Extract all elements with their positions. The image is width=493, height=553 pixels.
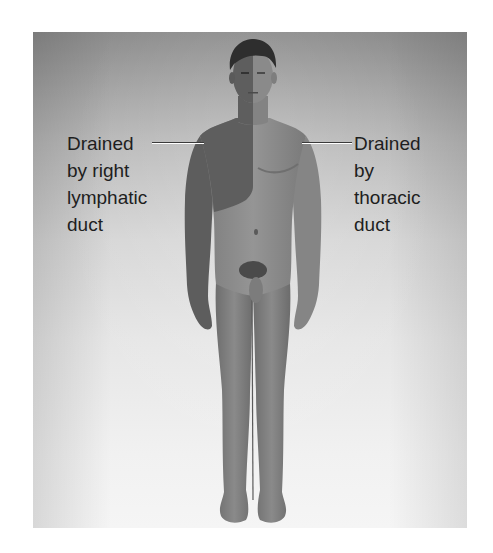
label-line: duct [354, 211, 421, 238]
label-right-lymphatic-duct: Drained by right lymphatic duct [67, 130, 147, 238]
label-line: Drained [67, 130, 147, 157]
legs [216, 282, 291, 523]
left-leader-line [152, 142, 204, 144]
torso [200, 118, 306, 303]
label-line: by right [67, 157, 147, 184]
label-line: Drained [354, 130, 421, 157]
human-body-figure [0, 0, 493, 553]
label-line: by [354, 157, 421, 184]
label-line: duct [67, 211, 147, 238]
label-thoracic-duct: Drained by thoracic duct [354, 130, 421, 238]
head [229, 39, 277, 103]
right-leader-line [302, 142, 352, 144]
label-line: lymphatic [67, 184, 147, 211]
label-line: thoracic [354, 184, 421, 211]
